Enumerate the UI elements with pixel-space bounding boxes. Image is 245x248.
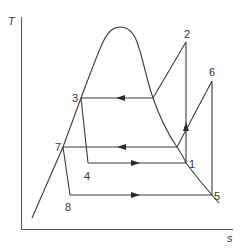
point-label-5: 5 [214,190,220,202]
arrow-right-icon [131,192,140,198]
arrow-left-icon [116,95,125,101]
point-label-3: 3 [72,92,78,104]
process-7-8 [63,147,70,195]
saturation-dome [32,27,219,218]
ts-diagram: T s 1 2 3 4 5 6 7 8 [0,0,245,248]
point-label-8: 8 [65,201,71,213]
process-3-4 [81,98,88,163]
point-label-6: 6 [209,66,215,78]
point-label-4: 4 [84,170,90,182]
point-label-2: 2 [184,28,190,40]
process-2-3 [81,42,186,98]
axes: T s [8,15,233,244]
x-axis-label: s [227,232,233,244]
point-label-1: 1 [189,158,195,170]
point-label-7: 7 [55,141,61,153]
arrow-left-icon [117,144,126,150]
point-labels: 1 2 3 4 5 6 7 8 [55,28,220,213]
y-axis-label: T [8,15,16,27]
arrow-right-icon [131,160,140,166]
